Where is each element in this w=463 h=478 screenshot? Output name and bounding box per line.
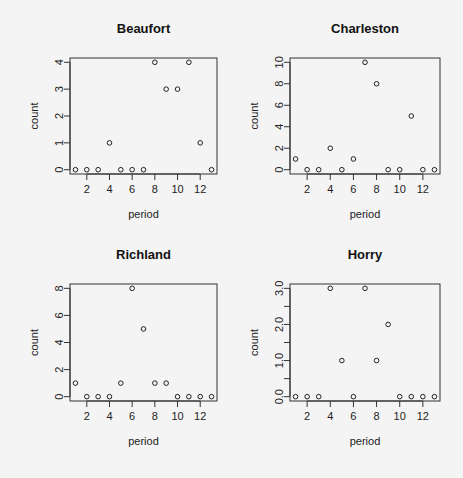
x-tick-label: 2 <box>304 410 310 422</box>
x-axis: 24681012period <box>84 174 207 220</box>
x-axis-label: period <box>128 435 159 447</box>
y-axis-label: count <box>28 329 40 356</box>
data-point <box>164 87 169 92</box>
x-tick-label: 4 <box>327 183 333 195</box>
y-axis-label: count <box>28 103 40 130</box>
data-point <box>141 167 146 172</box>
y-tick-label: 0 <box>273 167 285 173</box>
data-point <box>421 167 426 172</box>
y-tick-label: 1.0 <box>273 353 285 368</box>
x-tick-label: 2 <box>84 183 90 195</box>
data-point <box>328 146 333 151</box>
data-point <box>409 114 414 119</box>
plot-frame <box>70 58 217 174</box>
x-tick-label: 10 <box>171 183 183 195</box>
x-tick-label: 8 <box>152 410 158 422</box>
y-tick-label: 2 <box>273 145 285 151</box>
x-tick-label: 12 <box>194 183 206 195</box>
data-point <box>198 394 203 399</box>
plot-frame <box>290 58 440 174</box>
x-tick-label: 6 <box>350 410 356 422</box>
x-tick-label: 6 <box>129 410 135 422</box>
x-tick-label: 2 <box>84 410 90 422</box>
chart-title: Charleston <box>331 21 399 36</box>
data-point <box>363 286 368 291</box>
y-tick-label: 1 <box>53 140 65 146</box>
data-point <box>198 141 203 146</box>
chart-title: Horry <box>348 247 383 262</box>
panel-beaufort: Beaufort24681012period01234count <box>28 21 217 220</box>
x-tick-label: 10 <box>171 410 183 422</box>
y-tick-label: 0.0 <box>273 389 285 404</box>
y-axis: 0.01.02.03.0count <box>248 281 290 405</box>
data-point <box>340 358 345 363</box>
y-tick-label: 4 <box>53 59 65 65</box>
x-tick-label: 4 <box>327 410 333 422</box>
data-point <box>421 394 426 399</box>
chart-title: Beaufort <box>117 21 171 36</box>
data-point <box>187 394 192 399</box>
y-tick-label: 0 <box>53 167 65 173</box>
data-points <box>293 60 436 172</box>
data-point <box>351 157 356 162</box>
data-point <box>164 381 169 386</box>
x-axis-label: period <box>128 208 159 220</box>
y-tick-label: 4 <box>273 124 285 130</box>
data-point <box>374 81 379 86</box>
x-tick-label: 10 <box>394 410 406 422</box>
data-point <box>316 394 321 399</box>
data-point <box>141 327 146 332</box>
x-tick-label: 2 <box>304 183 310 195</box>
figure: Beaufort24681012period01234countCharlest… <box>0 0 463 478</box>
data-point <box>119 381 124 386</box>
y-tick-label: 3.0 <box>273 281 285 296</box>
data-point <box>130 286 135 291</box>
data-point <box>209 167 214 172</box>
x-tick-label: 8 <box>152 183 158 195</box>
data-point <box>187 60 192 65</box>
data-point <box>386 167 391 172</box>
data-point <box>351 394 356 399</box>
data-point <box>73 381 78 386</box>
data-point <box>305 394 310 399</box>
data-point <box>432 394 437 399</box>
x-axis-label: period <box>350 435 381 447</box>
data-point <box>409 394 414 399</box>
x-tick-label: 6 <box>129 183 135 195</box>
data-point <box>397 167 402 172</box>
data-point <box>175 87 180 92</box>
data-point <box>328 286 333 291</box>
data-point <box>209 394 214 399</box>
y-tick-label: 2.0 <box>273 317 285 332</box>
x-tick-label: 4 <box>106 183 112 195</box>
y-tick-label: 2 <box>53 367 65 373</box>
data-point <box>119 167 124 172</box>
data-point <box>107 141 112 146</box>
y-tick-label: 8 <box>53 285 65 291</box>
y-tick-label: 6 <box>53 312 65 318</box>
x-tick-label: 12 <box>417 183 429 195</box>
data-points <box>73 60 214 172</box>
data-point <box>386 322 391 327</box>
data-point <box>73 167 78 172</box>
data-point <box>316 167 321 172</box>
data-point <box>293 394 298 399</box>
chart-title: Richland <box>116 247 171 262</box>
x-axis: 24681012period <box>304 401 429 447</box>
data-point <box>293 157 298 162</box>
y-axis: 02468count <box>28 285 70 399</box>
x-axis: 24681012period <box>304 174 429 220</box>
y-tick-label: 8 <box>273 81 285 87</box>
y-tick-label: 10 <box>273 56 285 68</box>
data-point <box>153 381 158 386</box>
data-point <box>397 394 402 399</box>
data-point <box>96 394 101 399</box>
data-point <box>374 358 379 363</box>
y-tick-label: 6 <box>273 102 285 108</box>
data-points <box>73 286 214 399</box>
plot-frame <box>70 284 217 401</box>
y-tick-label: 4 <box>53 339 65 345</box>
y-tick-label: 2 <box>53 113 65 119</box>
data-point <box>363 60 368 65</box>
x-axis-label: period <box>350 208 381 220</box>
